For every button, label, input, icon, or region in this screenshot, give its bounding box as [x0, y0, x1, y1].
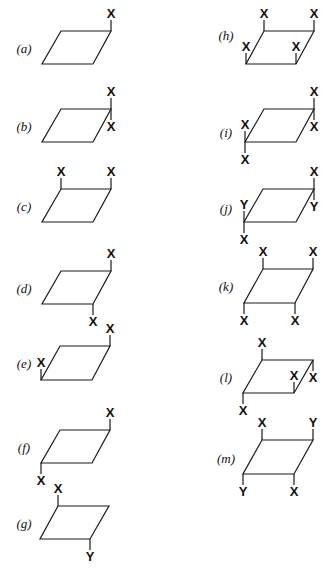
panel-label: (k)	[219, 279, 233, 294]
panel-b: (b)XX	[16, 84, 115, 142]
substituent-label: Y	[239, 484, 248, 499]
parallelogram	[42, 189, 111, 222]
panel-h: (h)XXXX	[218, 6, 318, 64]
panel-label: (i)	[220, 125, 232, 140]
parallelogram	[42, 31, 111, 64]
parallelogram	[246, 31, 314, 64]
substituent-label: X	[292, 39, 301, 54]
substituent-label: X	[107, 164, 116, 179]
substituent-label: X	[309, 370, 318, 385]
panel-label: (l)	[220, 370, 232, 385]
substituent-label: X	[240, 232, 249, 247]
substituent-label: X	[239, 403, 248, 418]
substituent-label: X	[107, 246, 116, 261]
substituent-label: Y	[240, 197, 249, 212]
parallelogram	[243, 440, 313, 474]
substituent-label: X	[290, 368, 299, 383]
panel-i: (i)XXXX	[220, 84, 319, 167]
substituent-label: X	[310, 164, 319, 179]
parallelogram	[42, 271, 111, 304]
panel-d: (d)XX	[16, 246, 115, 329]
substituent-label: X	[291, 313, 300, 328]
panel-label: (a)	[16, 41, 31, 56]
substituent-label: X	[258, 415, 267, 430]
substituent-label: X	[309, 244, 318, 259]
substituent-label: X	[290, 484, 299, 499]
panel-m: (m)XYYX	[217, 415, 318, 499]
panel-l: (l)XXXX	[220, 335, 318, 418]
substituent-label: X	[310, 84, 319, 99]
substituent-label: X	[240, 313, 249, 328]
substituent-label: X	[241, 117, 250, 132]
panel-c: (c)XX	[17, 164, 116, 222]
substituent-label: X	[37, 355, 46, 370]
substituent-label: X	[54, 481, 63, 496]
parallelogram	[40, 506, 109, 539]
substituent-label: X	[310, 119, 319, 134]
panel-f: (f)XX	[18, 405, 115, 488]
panel-label: (b)	[16, 119, 31, 134]
diagram-canvas: (a)X(b)XX(c)XX(d)XX(e)XX(f)XX(g)XY(h)XXX…	[0, 0, 325, 569]
panel-label: (c)	[17, 199, 31, 214]
substituent-label: X	[107, 119, 116, 134]
panel-label: (e)	[17, 356, 31, 371]
parallelogram	[41, 346, 110, 380]
panel-k: (k)XXXX	[219, 244, 318, 328]
substituent-label: X	[260, 6, 269, 21]
substituent-label: X	[259, 244, 268, 259]
parallelogram	[243, 360, 313, 393]
substituent-label: X	[107, 6, 116, 21]
substituent-label: X	[37, 473, 46, 488]
panel-label: (d)	[16, 281, 31, 296]
parallelogram	[244, 189, 314, 222]
panel-label: (j)	[220, 201, 232, 216]
substituent-label: X	[241, 152, 250, 167]
parallelogram	[244, 269, 313, 303]
panel-e: (e)XX	[17, 321, 115, 380]
panel-label: (m)	[217, 451, 235, 466]
substituent-label: X	[258, 335, 267, 350]
substituent-label: X	[106, 321, 115, 336]
panel-g: (g)XY	[16, 481, 109, 564]
panel-label: (h)	[218, 28, 233, 43]
panel-label: (f)	[18, 440, 30, 455]
substituent-label: X	[57, 164, 66, 179]
panel-j: (j)XYYX	[220, 164, 319, 247]
substituent-label: X	[107, 84, 116, 99]
substituent-label: X	[310, 6, 319, 21]
substituent-label: Y	[310, 199, 319, 214]
panel-a: (a)X	[16, 6, 115, 64]
parallelogram	[41, 430, 110, 463]
substituent-label: Y	[309, 415, 318, 430]
substituent-label: X	[106, 405, 115, 420]
parallelogram	[42, 109, 111, 142]
substituent-label: X	[242, 39, 251, 54]
panel-label: (g)	[16, 516, 31, 531]
substituent-label: Y	[86, 549, 95, 564]
substituent-label: X	[89, 314, 98, 329]
parallelogram	[245, 109, 314, 142]
